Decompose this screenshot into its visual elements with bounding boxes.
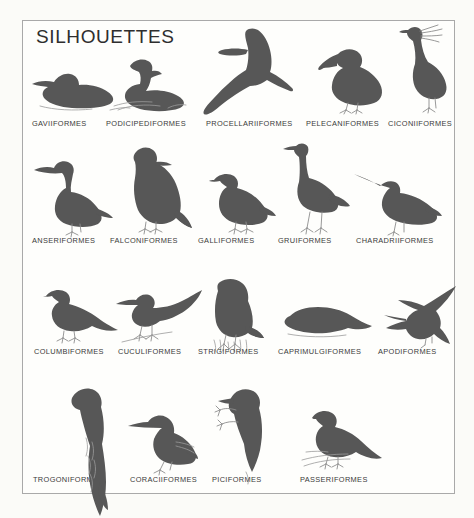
curlew-silhouette bbox=[352, 168, 442, 236]
label-passeriformes: PASSERIFORMES bbox=[300, 475, 368, 484]
label-anseriformes: ANSERIFORMES bbox=[32, 236, 95, 245]
label-podicipediformes: PODICIPEDIFORMES bbox=[106, 119, 186, 128]
cuckoo-silhouette bbox=[114, 288, 204, 346]
label-gaviiformes: GAVIIFORMES bbox=[32, 119, 87, 128]
falcon-silhouette bbox=[116, 146, 194, 232]
nightjar-silhouette bbox=[278, 302, 374, 344]
label-falconiformes: FALCONIFORMES bbox=[110, 236, 178, 245]
label-strigiformes: STRIGIFORMES bbox=[198, 347, 258, 356]
label-pelecaniformes: PELECANIFORMES bbox=[306, 119, 379, 128]
silhouettes-plate-page: SILHOUETTES GAVIIFORMES PODICIPEDIFORMES… bbox=[0, 0, 474, 518]
label-gruiformes: GRUIFORMES bbox=[278, 236, 332, 245]
page-title: SILHOUETTES bbox=[36, 26, 175, 48]
songbird-silhouette bbox=[298, 408, 382, 470]
pelican-silhouette bbox=[312, 46, 390, 114]
albatross-silhouette bbox=[190, 28, 296, 116]
loon-silhouette bbox=[30, 62, 116, 112]
label-galliformes: GALLIFORMES bbox=[198, 236, 254, 245]
label-procellariiformes: PROCELLARIIFORMES bbox=[206, 119, 292, 128]
woodpecker-silhouette bbox=[206, 388, 268, 474]
hummingbird-silhouette bbox=[382, 284, 458, 348]
owl-silhouette bbox=[202, 278, 266, 352]
heron-silhouette bbox=[398, 24, 460, 114]
trogon-silhouette bbox=[58, 386, 130, 518]
label-cuculiformes: CUCULIFORMES bbox=[118, 347, 181, 356]
label-apodiformes: APODIFORMES bbox=[378, 347, 436, 356]
grebe-silhouette bbox=[108, 58, 194, 112]
grouse-silhouette bbox=[200, 172, 276, 234]
crane-silhouette bbox=[276, 142, 352, 234]
label-piciformes: PICIFORMES bbox=[212, 475, 262, 484]
pigeon-silhouette bbox=[34, 288, 118, 344]
label-columbiformes: COLUMBIFORMES bbox=[34, 347, 104, 356]
label-charadriiformes: CHARADRIIFORMES bbox=[356, 236, 434, 245]
label-ciconiiformes: CICONIIFORMES bbox=[388, 119, 452, 128]
label-coraciiformes: CORACIIFORMES bbox=[130, 475, 197, 484]
label-caprimulgiformes: CAPRIMULGIFORMES bbox=[278, 347, 361, 356]
kingfisher-silhouette bbox=[126, 412, 198, 470]
goose-silhouette bbox=[32, 158, 114, 232]
